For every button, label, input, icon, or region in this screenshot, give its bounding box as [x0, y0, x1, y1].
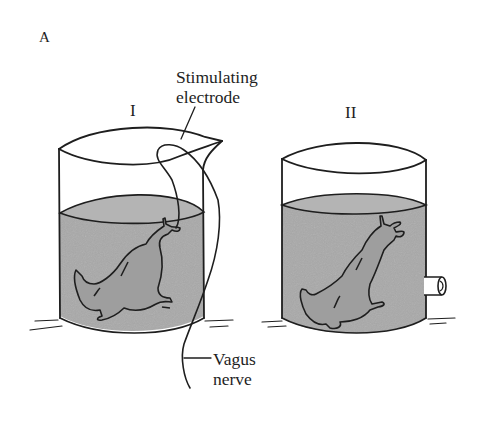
- stimulating-electrode-label-line2: electrode: [176, 87, 258, 107]
- stimulating-electrode-label-line1: Stimulating: [176, 67, 258, 87]
- experiment-diagram: A I II Stimulating electrode Vagus nerve: [0, 0, 487, 433]
- stimulating-electrode-label: Stimulating electrode: [176, 67, 258, 107]
- vagus-nerve-label-line2: nerve: [213, 369, 256, 389]
- beaker-2-fluid-surface: [282, 194, 426, 214]
- outlet-tube: [424, 277, 446, 295]
- vagus-nerve-label: Vagus nerve: [213, 349, 256, 389]
- vagus-nerve-label-line1: Vagus: [213, 349, 256, 369]
- panel-label: A: [39, 30, 50, 45]
- beaker-1-fluid-surface: [60, 195, 204, 224]
- apparatus-label-2: II: [345, 104, 356, 121]
- apparatus-label-1: I: [130, 102, 136, 119]
